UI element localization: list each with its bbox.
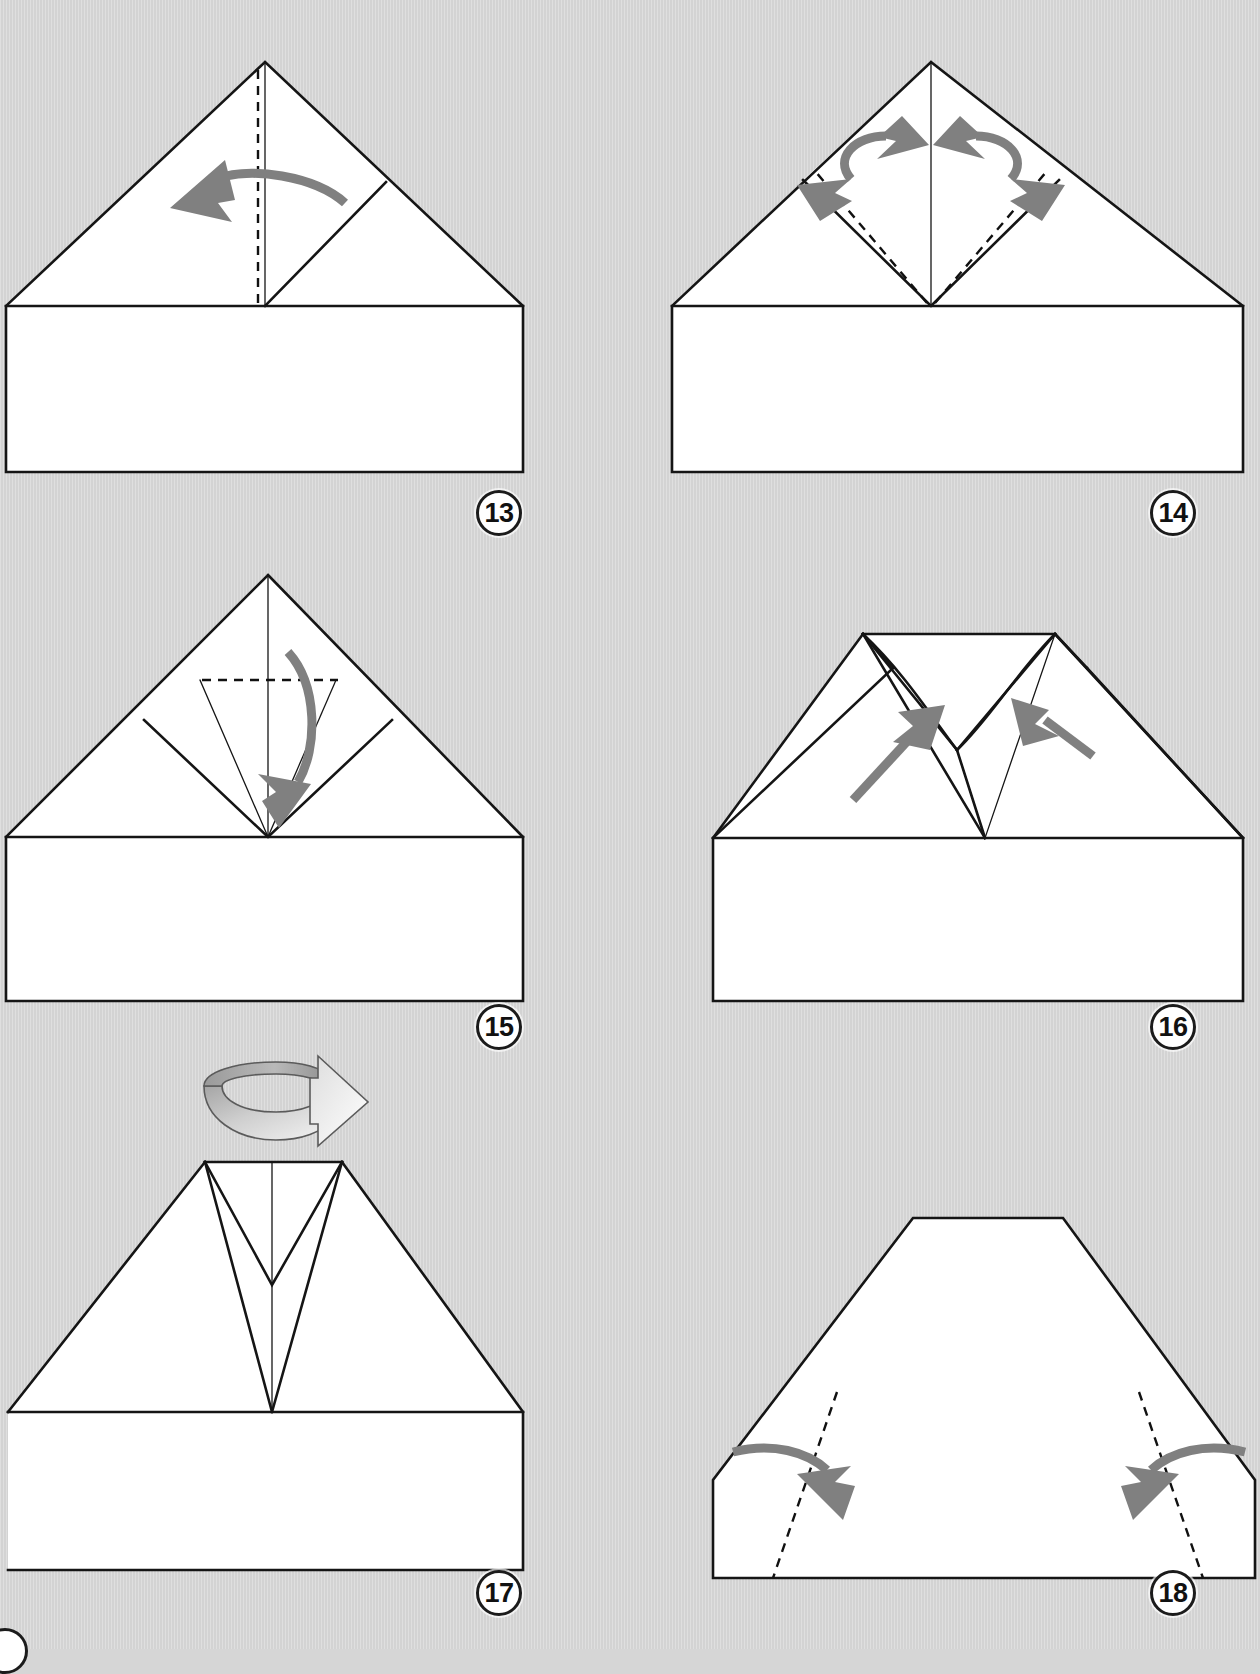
step-17-diagram bbox=[0, 1140, 540, 1570]
step-badge-partial-clipped bbox=[0, 1628, 28, 1674]
step-badge-16: 16 bbox=[1150, 1004, 1196, 1050]
step-14-diagram bbox=[655, 40, 1255, 490]
step-panel-16 bbox=[655, 560, 1255, 1010]
paper-body-17 bbox=[8, 1412, 523, 1570]
step-panel-18 bbox=[655, 1130, 1255, 1580]
step-badge-18: 18 bbox=[1150, 1570, 1196, 1616]
step-panel-14 bbox=[655, 40, 1255, 490]
step-number-18: 18 bbox=[1158, 1578, 1187, 1609]
step-badge-13: 13 bbox=[476, 490, 522, 536]
step-16-diagram bbox=[655, 560, 1255, 1010]
flip-over-icon bbox=[190, 1040, 380, 1150]
step-number-13: 13 bbox=[484, 498, 513, 529]
paper-roof-17 bbox=[8, 1162, 523, 1412]
flip-over-symbol bbox=[190, 1040, 380, 1150]
step-panel-17 bbox=[0, 1140, 540, 1570]
paper-body-18 bbox=[713, 1218, 1255, 1578]
paper-body-15 bbox=[6, 837, 523, 1001]
paper-body-16 bbox=[713, 838, 1243, 1001]
step-badge-15: 15 bbox=[476, 1004, 522, 1050]
step-panel-15 bbox=[0, 560, 540, 1010]
step-number-16: 16 bbox=[1158, 1012, 1187, 1043]
step-panel-13 bbox=[0, 40, 540, 490]
step-badge-17: 17 bbox=[476, 1570, 522, 1616]
step-13-diagram bbox=[0, 40, 540, 490]
flip-arrowhead bbox=[310, 1056, 368, 1146]
step-badge-14: 14 bbox=[1150, 490, 1196, 536]
paper-body-14 bbox=[672, 306, 1243, 472]
step-number-17: 17 bbox=[484, 1578, 513, 1609]
step-15-diagram bbox=[0, 560, 540, 1010]
paper-body-13 bbox=[6, 306, 523, 472]
step-number-14: 14 bbox=[1158, 498, 1187, 529]
step-18-diagram bbox=[655, 1130, 1255, 1580]
step-number-15: 15 bbox=[484, 1012, 513, 1043]
